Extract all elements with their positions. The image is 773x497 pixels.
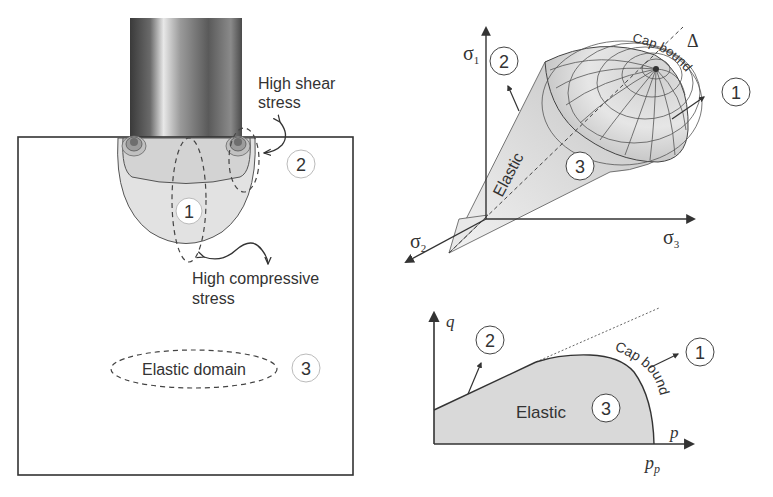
pq-plane-panel: q p pp Cap bound Elastic 2 1 3: [434, 308, 714, 476]
region-marker-3-text: 3: [301, 359, 311, 379]
cap-apex-point: [653, 66, 659, 72]
pq-q-label: q: [446, 312, 455, 331]
pq-region-marker-2-text: 2: [485, 331, 495, 351]
pq-p-label: p: [669, 423, 679, 442]
sigma1-label: σ1: [463, 42, 479, 66]
hydrostatic-delta-label: Δ: [687, 31, 699, 51]
sigma3-label: σ3: [663, 226, 680, 250]
sigma2-label: σ2: [410, 230, 426, 254]
pq-cap-normal-arrow: [649, 354, 678, 368]
punch: [130, 18, 242, 138]
region-marker-2-text: 2: [296, 155, 306, 175]
cone-region-marker-3-text: 3: [575, 157, 585, 177]
indentation-panel: 1 2 High shear stress High compressive s…: [18, 18, 353, 475]
cone-shear-normal-arrow: [508, 86, 519, 111]
region-marker-1-text: 1: [184, 202, 194, 222]
compressive-stress-label-line2: stress: [192, 290, 235, 307]
cone-region-marker-2-text: 2: [499, 52, 509, 72]
compressive-stress-label-line1: High compressive: [192, 270, 319, 287]
pq-region-marker-1-text: 1: [695, 343, 705, 363]
shear-stress-label-line2: stress: [258, 94, 301, 111]
shear-stress-label-line1: High shear: [258, 75, 336, 92]
compressive-callout-arrow: [204, 243, 268, 264]
pq-elastic-region: [434, 355, 654, 444]
pq-region-marker-3-text: 3: [601, 399, 611, 419]
figure-canvas: 1 2 High shear stress High compressive s…: [0, 0, 773, 497]
cone-region-marker-1-text: 1: [731, 83, 741, 103]
elastic-domain-label: Elastic domain: [142, 361, 246, 378]
stress-space-cone-panel: σ1 σ2 σ3 Δ Cap bound Elastic 2 1 3: [406, 27, 750, 262]
pq-pp-label: pp: [643, 453, 660, 476]
pq-elastic-label: Elastic: [516, 403, 567, 422]
